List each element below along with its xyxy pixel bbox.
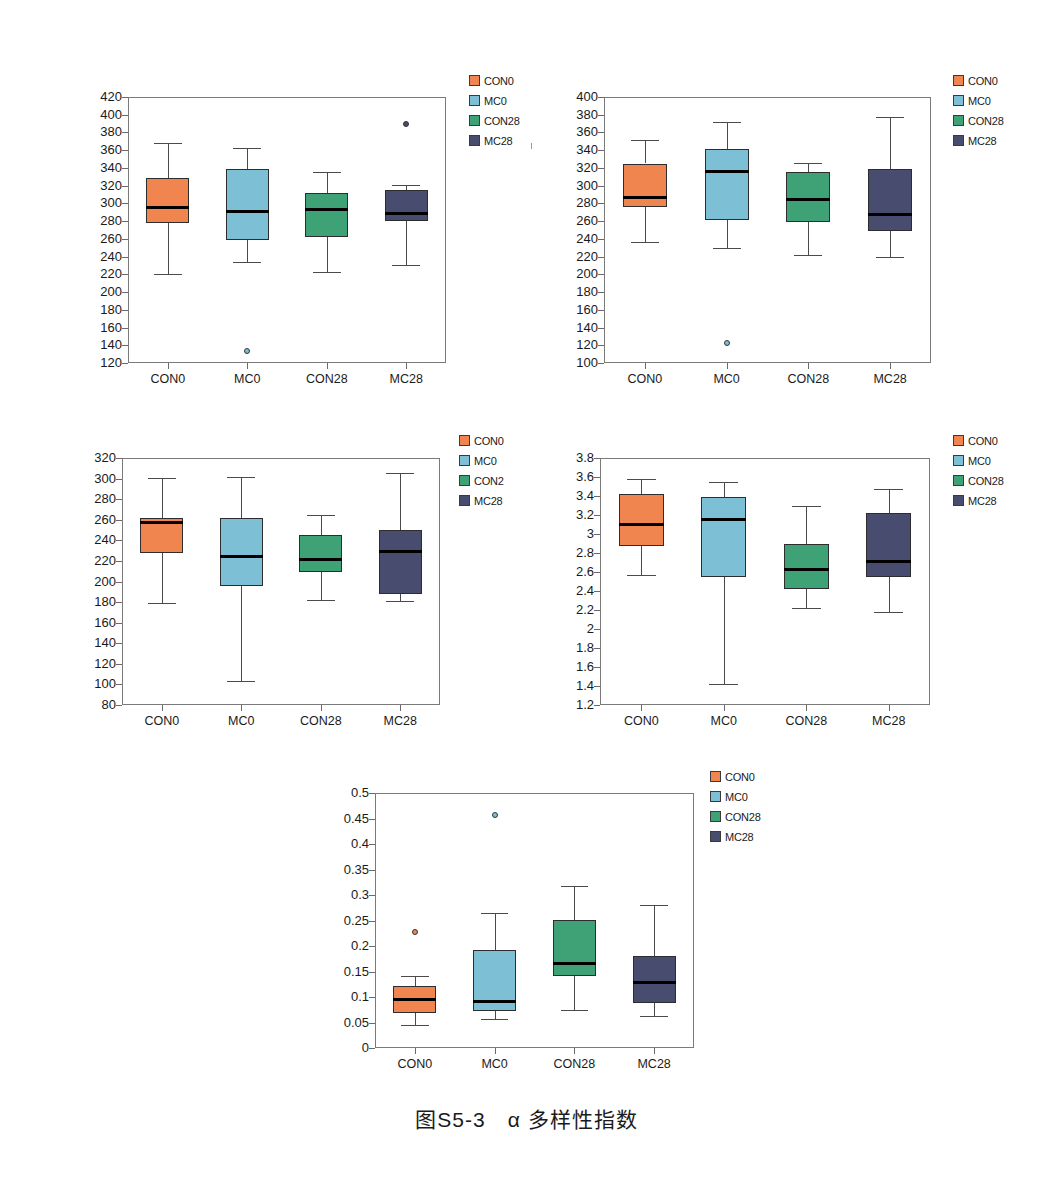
y-tick-mark — [369, 946, 375, 947]
y-tick-mark — [369, 895, 375, 896]
median-line — [553, 962, 596, 965]
whisker-lower — [415, 1013, 416, 1025]
y-tick-mark — [369, 997, 375, 998]
y-tick-mark — [369, 1023, 375, 1024]
whisker-upper — [574, 886, 575, 920]
y-tick-mark — [369, 1048, 375, 1049]
x-tick-label: MC28 — [609, 1057, 699, 1071]
median-line — [473, 1000, 516, 1003]
whisker-upper — [415, 976, 416, 986]
whisker-lower — [654, 1003, 655, 1017]
y-tick-mark — [369, 819, 375, 820]
legend-item[interactable]: CON28 — [710, 808, 761, 825]
y-tick-label: 0.3 — [317, 887, 369, 902]
legend-swatch-mc0 — [710, 791, 721, 802]
legend-swatch-mc28 — [710, 831, 721, 842]
y-tick-label: 0.4 — [317, 836, 369, 851]
y-tick-label: 0.25 — [317, 913, 369, 928]
legend-label: CON0 — [725, 771, 755, 783]
y-tick-label: 0 — [317, 1040, 369, 1055]
y-tick-mark — [369, 793, 375, 794]
y-tick-label: 0.15 — [317, 964, 369, 979]
whisker-cap-lower — [481, 1019, 509, 1020]
x-tick-label: CON28 — [529, 1057, 619, 1071]
whisker-cap-lower — [401, 1025, 429, 1026]
y-tick-label: 0.2 — [317, 938, 369, 953]
x-tick-mark — [574, 1048, 575, 1054]
whisker-cap-upper — [561, 886, 589, 887]
whisker-upper — [495, 913, 496, 950]
scan-artifact-mark — [531, 143, 532, 149]
whisker-cap-upper — [481, 913, 509, 914]
legend-swatch-con28 — [710, 811, 721, 822]
box-body — [633, 956, 676, 1003]
legend-item[interactable]: MC0 — [710, 788, 761, 805]
y-tick-mark — [369, 844, 375, 845]
box-body — [553, 920, 596, 976]
whisker-cap-lower — [640, 1016, 668, 1017]
whisker-cap-lower — [561, 1010, 589, 1011]
x-tick-mark — [415, 1048, 416, 1054]
y-tick-mark — [369, 972, 375, 973]
legend-swatch-con0 — [710, 771, 721, 782]
median-line — [633, 981, 676, 984]
x-tick-mark — [654, 1048, 655, 1054]
chart-panel-5: 00.050.10.150.20.250.30.350.40.450.5CON0… — [0, 0, 1053, 1185]
y-tick-label: 0.5 — [317, 785, 369, 800]
legend-label: CON28 — [725, 811, 761, 823]
y-tick-label: 0.1 — [317, 989, 369, 1004]
y-tick-mark — [369, 921, 375, 922]
legend-item[interactable]: MC28 — [710, 828, 761, 845]
y-tick-label: 0.05 — [317, 1015, 369, 1030]
legend-label: MC28 — [725, 831, 754, 843]
y-tick-mark — [369, 870, 375, 871]
whisker-lower — [574, 976, 575, 1010]
legend-item[interactable]: CON0 — [710, 768, 761, 785]
y-tick-label: 0.35 — [317, 862, 369, 877]
median-line — [393, 998, 436, 1001]
whisker-cap-upper — [640, 905, 668, 906]
y-tick-label: 0.45 — [317, 811, 369, 826]
whisker-upper — [654, 905, 655, 956]
x-tick-label: MC0 — [450, 1057, 540, 1071]
figure-caption: 图S5-3 α 多样性指数 — [0, 1103, 1053, 1133]
whisker-cap-upper — [401, 976, 429, 977]
x-tick-label: CON0 — [370, 1057, 460, 1071]
legend-label: MC0 — [725, 791, 748, 803]
x-tick-mark — [495, 1048, 496, 1054]
chart-legend: CON0MC0CON28MC28 — [710, 768, 761, 848]
